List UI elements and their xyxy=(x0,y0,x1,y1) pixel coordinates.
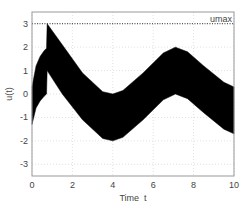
x-tick-labels: 0246810 xyxy=(29,180,239,190)
y-tick-label: -2 xyxy=(20,136,28,146)
x-tick-label: 8 xyxy=(191,180,196,190)
x-tick-label: 6 xyxy=(151,180,156,190)
umax-label: umax xyxy=(210,14,233,24)
y-axis-label: u(t) xyxy=(4,87,14,101)
y-tick-label: 3 xyxy=(23,19,28,29)
y-tick-labels: 3210-1-2-3 xyxy=(20,19,28,170)
data-band xyxy=(32,24,234,141)
y-tick-label: -3 xyxy=(20,159,28,169)
chart: umax 0246810 3210-1-2-3 Time t u(t) xyxy=(0,0,250,206)
x-axis-label: Time t xyxy=(119,193,147,203)
y-tick-label: 0 xyxy=(23,89,28,99)
x-tick-label: 2 xyxy=(70,180,75,190)
y-tick-label: 1 xyxy=(23,66,28,76)
y-tick-label: 2 xyxy=(23,42,28,52)
x-tick-label: 10 xyxy=(229,180,239,190)
x-tick-label: 4 xyxy=(110,180,115,190)
y-tick-label: -1 xyxy=(20,112,28,122)
x-tick-label: 0 xyxy=(29,180,34,190)
